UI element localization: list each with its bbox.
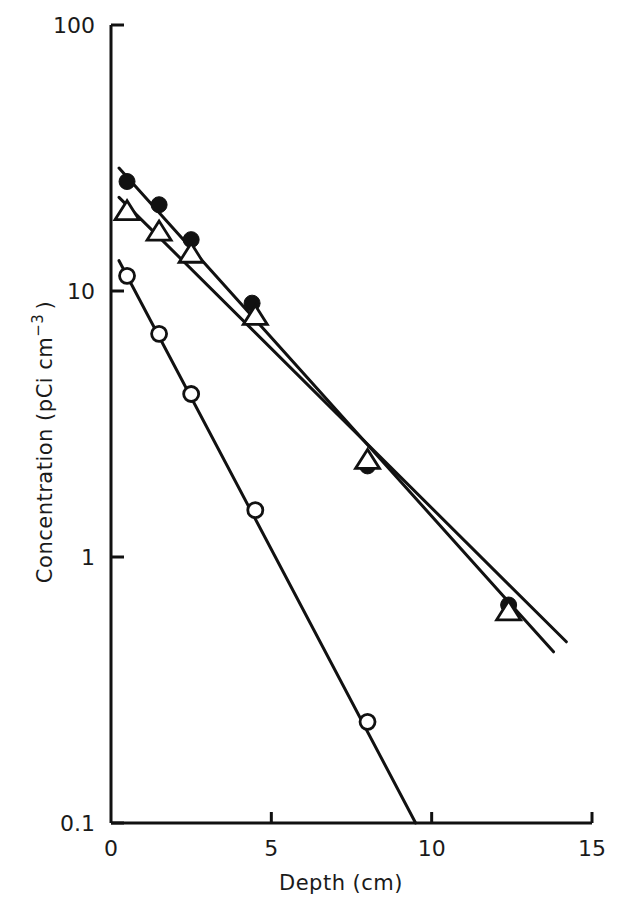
x-tick-label: 15: [578, 836, 606, 861]
x-tick-label: 0: [104, 836, 118, 861]
filled-circle-marker: [119, 174, 135, 190]
y-axis-label-superscript: −3: [29, 314, 47, 337]
axis-labels: Depth (cm) Concentration (pCi cm−3): [29, 301, 403, 895]
y-axis-label: Concentration (pCi cm−3): [29, 301, 57, 583]
x-tick-label: 10: [418, 836, 446, 861]
open-circle-marker: [152, 326, 167, 341]
y-axis-label-close: ): [33, 301, 57, 310]
axes: 0.1110100051015: [53, 13, 606, 861]
open-circle-marker: [360, 714, 375, 729]
open-circle-marker: [248, 503, 263, 518]
y-axis-label-main: Concentration (pCi cm: [33, 337, 57, 583]
open-triangle-marker: [179, 243, 203, 262]
filled-circle-marker: [151, 197, 167, 213]
fit-lines: [119, 168, 566, 823]
open-triangle-marker: [115, 201, 139, 220]
y-tick-label: 100: [53, 13, 95, 38]
data-markers: [115, 174, 521, 730]
open-circle-marker: [120, 268, 135, 283]
y-tick-label: 1: [81, 545, 95, 570]
y-tick-label: 10: [67, 279, 95, 304]
chart: 0.1110100051015 Depth (cm) Concentration…: [0, 0, 619, 907]
y-tick-label: 0.1: [60, 811, 95, 836]
x-axis-label: Depth (cm): [279, 871, 403, 895]
open-circle-marker: [184, 386, 199, 401]
fit-line: [119, 197, 566, 641]
x-tick-label: 5: [264, 836, 278, 861]
